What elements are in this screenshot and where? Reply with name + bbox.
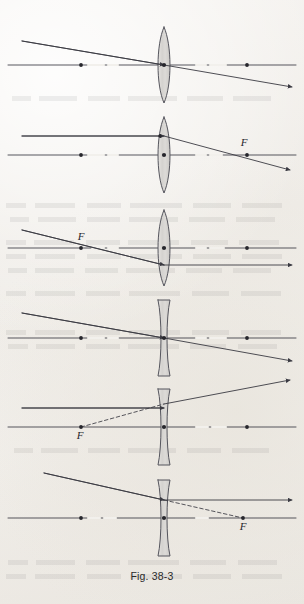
virtual-ray-dashed: [164, 500, 243, 518]
incident-ray-tail: [22, 313, 164, 338]
refracted-ray: [164, 136, 290, 170]
lens-center-point: [162, 153, 166, 157]
focal-label-F-left: F: [76, 429, 84, 441]
refracted-ray: [164, 65, 292, 87]
lens-center-point: [162, 246, 166, 250]
lens-center-point: [162, 63, 166, 67]
incident-ray-tail: [44, 473, 164, 500]
figure-caption: Fig. 38-3: [0, 570, 304, 582]
virtual-ray-dashed: [81, 404, 164, 427]
panel-6-diverging-focal-ray: F: [8, 473, 296, 556]
panel-1-converging-center-ray: [8, 27, 296, 103]
focal-point-right: [245, 246, 249, 250]
focal-point-left: [79, 246, 83, 250]
incident-ray-tail: [22, 41, 164, 65]
focal-label-F-right: F: [240, 136, 248, 148]
lens-center-point: [162, 516, 166, 520]
focal-point-left: [79, 63, 83, 67]
panel-3-converging-focal-ray: F: [8, 210, 296, 286]
panel-2-converging-parallel-ray: F: [8, 117, 296, 193]
focal-label-F-right: F: [239, 520, 247, 532]
focal-point-left: [79, 516, 83, 520]
refracted-ray: [164, 338, 292, 361]
focal-point-right: [245, 425, 249, 429]
focal-point-right: [245, 336, 249, 340]
lens-center-point: [162, 425, 166, 429]
incident-ray-tail: [22, 230, 164, 265]
panel-4-diverging-center-ray: [8, 300, 296, 376]
ray-entry-point: [158, 134, 161, 137]
focal-point-left: [79, 336, 83, 340]
panel-5-diverging-parallel-ray: F: [8, 380, 296, 465]
lens-center-point: [162, 336, 166, 340]
focal-point-left: [79, 153, 83, 157]
figure-container: F F: [0, 0, 304, 604]
focal-point-right: [245, 63, 249, 67]
focal-point-right: [245, 153, 249, 157]
refracted-ray: [164, 380, 290, 404]
focal-label-F-left: F: [77, 230, 85, 242]
lens-ray-diagram: F F: [0, 0, 304, 604]
